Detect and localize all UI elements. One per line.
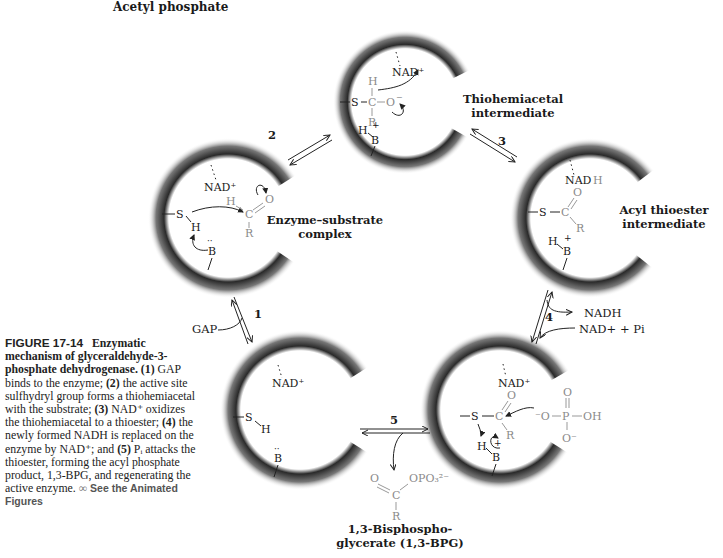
svg-text:H: H (261, 423, 271, 436)
animation-icon: ∞ (79, 481, 87, 495)
nadh-product: NADH (584, 306, 622, 320)
figure-caption: FIGURE 17-14 Enzymatic mechanism of glyc… (5, 337, 200, 509)
step-2-arrows (288, 135, 332, 165)
svg-text:S: S (471, 410, 479, 423)
step-4-number: 4 (545, 310, 553, 324)
step-3-number: 3 (498, 134, 506, 148)
svg-text:NAD⁺: NAD⁺ (204, 181, 236, 194)
svg-text:O: O (507, 389, 516, 402)
svg-text:C: C (245, 208, 253, 221)
svg-text:+: + (372, 120, 380, 130)
svg-text:B: B (492, 451, 500, 464)
svg-text:−: − (396, 93, 403, 102)
svg-text:B: B (563, 245, 571, 258)
svg-text:B: B (371, 134, 379, 147)
step-4-arrows (532, 290, 575, 344)
svg-text:NAD⁺: NAD⁺ (272, 377, 304, 390)
svg-text:O: O (573, 186, 582, 199)
svg-text:C: C (495, 410, 503, 423)
svg-text:H: H (226, 195, 236, 208)
svg-text:R: R (576, 222, 585, 235)
svg-text:H: H (368, 75, 378, 88)
svg-text:S: S (245, 411, 253, 424)
svg-text:O: O (370, 472, 379, 485)
svg-text:S: S (539, 206, 547, 219)
enzyme-substrate-label: Enzyme–substrate complex (255, 213, 395, 241)
svg-text:R: R (506, 429, 515, 442)
svg-text:C: C (561, 206, 569, 219)
step-2-number: 2 (268, 128, 276, 142)
svg-text:⁻O: ⁻O (535, 410, 550, 423)
svg-text:B: B (274, 452, 282, 465)
svg-text:O⁻: O⁻ (562, 432, 577, 445)
product-structure: O C OPO₃²⁻ R (370, 472, 449, 523)
nad-pi-reagent: NAD+ + Pi (579, 322, 645, 336)
svg-text:B: B (208, 245, 216, 258)
step-1-arrows (218, 297, 252, 344)
svg-text:O: O (386, 96, 395, 109)
svg-text:H: H (548, 235, 558, 248)
product-label: 1,3-Bisphospho- glycerate (1,3-BPG) (335, 522, 465, 550)
svg-text:+: + (564, 233, 572, 243)
step-5-number: 5 (390, 413, 398, 427)
svg-text:OH: OH (583, 410, 602, 423)
svg-text:H: H (191, 221, 201, 234)
svg-text:H: H (593, 174, 603, 187)
svg-text:R: R (245, 227, 254, 240)
acyl-thioester-label: Acyl thioester intermediate (605, 203, 723, 231)
svg-text:H: H (477, 440, 487, 453)
step-1-number: 1 (254, 307, 262, 321)
svg-text:OPO₃²⁻: OPO₃²⁻ (409, 472, 449, 485)
svg-text:NAD⁺: NAD⁺ (392, 66, 424, 79)
figure-number: FIGURE 17-14 (5, 336, 83, 350)
svg-text:O: O (265, 193, 274, 206)
thiohemiacetal-label: Thiohemiacetal intermediate (448, 92, 578, 120)
svg-text:S: S (176, 208, 184, 221)
svg-text:O: O (563, 386, 572, 399)
gap-reagent: GAP (192, 322, 217, 336)
svg-text:H: H (358, 124, 368, 137)
svg-text:C: C (392, 489, 400, 502)
enzyme-ring-free-enzyme (220, 330, 395, 490)
svg-text:C: C (368, 96, 376, 109)
svg-text:P: P (562, 410, 570, 423)
svg-text:+: + (494, 438, 502, 448)
svg-text:S: S (351, 96, 359, 109)
